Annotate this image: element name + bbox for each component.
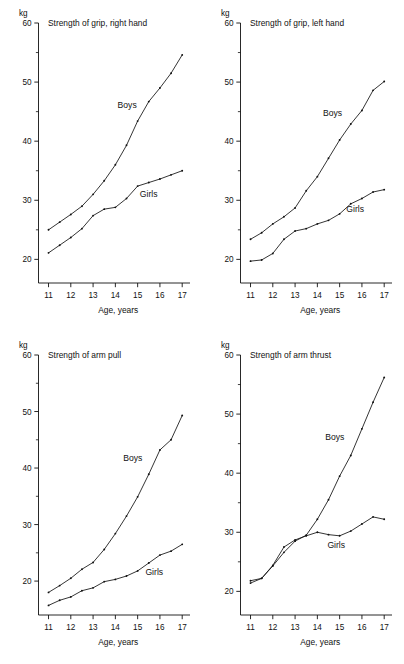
data-point: [250, 238, 252, 240]
data-point: [283, 551, 285, 553]
data-point: [261, 259, 263, 261]
data-point: [328, 534, 330, 536]
data-point: [294, 539, 296, 541]
x-axis-tick-label: 13: [291, 291, 301, 300]
y-axis-tick-label: 40: [22, 137, 32, 146]
data-point: [170, 72, 172, 74]
data-point: [159, 178, 161, 180]
chart-title: Strength of grip, right hand: [48, 18, 148, 28]
y-axis-tick-label: 60: [224, 351, 234, 360]
data-point: [59, 599, 61, 601]
data-point: [81, 590, 83, 592]
series-line-boys: [251, 82, 385, 240]
y-axis-tick-label: 30: [224, 196, 234, 205]
series-line-boys: [49, 55, 183, 230]
x-axis-tick-label: 17: [178, 291, 188, 300]
data-point: [283, 238, 285, 240]
data-point: [170, 439, 172, 441]
chart-svg-arm-thrust: kgStrength of arm thrust2030405060111213…: [202, 332, 404, 664]
data-point: [92, 215, 94, 217]
y-axis-tick-label: 60: [22, 19, 32, 28]
x-axis-title: Age, years: [300, 637, 340, 647]
data-point: [328, 219, 330, 221]
data-point: [81, 205, 83, 207]
data-point: [361, 523, 363, 525]
y-axis-tick-label: 50: [224, 410, 234, 419]
x-axis-tick-label: 16: [357, 623, 367, 632]
data-point: [114, 578, 116, 580]
data-point: [181, 543, 183, 545]
data-point: [272, 223, 274, 225]
data-point: [181, 170, 183, 172]
data-point: [70, 577, 72, 579]
data-point: [181, 415, 183, 417]
data-point: [103, 208, 105, 210]
data-point: [305, 535, 307, 537]
data-point: [316, 518, 318, 520]
y-axis-unit-label: kg: [221, 341, 230, 350]
x-axis-tick-label: 11: [246, 623, 255, 632]
axis-lines: [39, 355, 191, 615]
y-axis-tick-label: 30: [22, 196, 32, 205]
chart-panel-grip-left-hand: kgStrength of grip, left hand20304050601…: [202, 0, 404, 332]
x-axis-tick-label: 17: [178, 623, 188, 632]
data-point: [59, 585, 61, 587]
y-axis-unit-label: kg: [221, 9, 230, 18]
data-point: [372, 401, 374, 403]
y-axis-tick-label: 20: [22, 255, 32, 264]
data-point: [92, 193, 94, 195]
x-axis-tick-label: 12: [268, 623, 278, 632]
y-axis-tick-label: 50: [224, 78, 234, 87]
data-point: [48, 252, 50, 254]
data-point: [350, 530, 352, 532]
x-axis-tick-label: 16: [155, 291, 165, 300]
x-axis-tick-label: 15: [133, 623, 143, 632]
series-line-boys: [49, 415, 183, 592]
data-point: [59, 221, 61, 223]
y-axis-tick-label: 30: [22, 521, 32, 530]
series-line-girls: [251, 517, 385, 581]
y-axis-tick-label: 60: [22, 351, 32, 360]
x-axis-tick-label: 15: [133, 291, 143, 300]
x-axis-tick-label: 14: [111, 623, 121, 632]
y-axis-tick-label: 20: [22, 577, 32, 586]
data-point: [272, 253, 274, 255]
data-point: [383, 189, 385, 191]
x-axis-tick-label: 17: [380, 623, 390, 632]
y-axis-tick-label: 60: [224, 19, 234, 28]
data-point: [137, 570, 139, 572]
chart-title: Strength of arm thrust: [250, 350, 332, 360]
data-point: [148, 101, 150, 103]
y-axis-unit-label: kg: [19, 9, 28, 18]
series-label-girls: Girls: [327, 540, 345, 550]
x-axis-tick-label: 11: [44, 623, 53, 632]
data-point: [92, 587, 94, 589]
y-axis-tick-label: 40: [224, 137, 234, 146]
x-axis-title: Age, years: [98, 637, 138, 647]
x-axis-tick-label: 13: [291, 623, 301, 632]
data-point: [272, 564, 274, 566]
data-point: [250, 582, 252, 584]
data-point: [294, 207, 296, 209]
data-point: [316, 531, 318, 533]
data-point: [159, 87, 161, 89]
chart-svg-grip-right-hand: kgStrength of grip, right hand2030405060…: [0, 0, 202, 332]
y-axis-tick-label: 50: [22, 408, 32, 417]
data-point: [103, 548, 105, 550]
data-point: [361, 198, 363, 200]
data-point: [70, 237, 72, 239]
data-point: [383, 518, 385, 520]
data-point: [383, 377, 385, 379]
data-point: [81, 568, 83, 570]
data-point: [305, 190, 307, 192]
data-point: [305, 228, 307, 230]
data-point: [137, 185, 139, 187]
chart-panel-arm-pull: kgStrength of arm pull203040506011121314…: [0, 332, 202, 664]
x-axis-tick-label: 14: [111, 291, 121, 300]
data-point: [316, 176, 318, 178]
chart-title: Strength of grip, left hand: [250, 18, 344, 28]
x-axis-tick-label: 13: [89, 623, 99, 632]
x-axis-tick-label: 16: [357, 291, 367, 300]
x-axis-tick-label: 16: [155, 623, 165, 632]
series-line-girls: [49, 171, 183, 253]
